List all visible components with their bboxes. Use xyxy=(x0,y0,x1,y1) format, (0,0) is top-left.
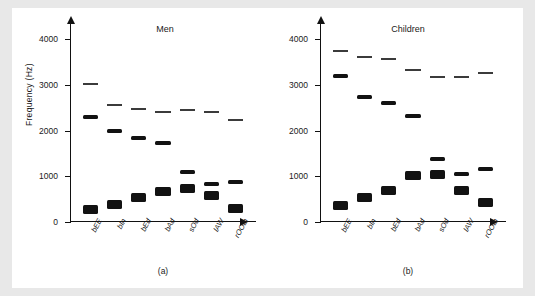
bar-F1-lAW xyxy=(454,186,469,195)
subfigure-caption-a: (a) xyxy=(18,266,268,276)
bar-F1-bEE xyxy=(83,205,98,214)
y-tick-3000: 3000 xyxy=(65,85,71,86)
y-tick-2000: 2000 xyxy=(315,131,321,132)
bar-F1-sOd xyxy=(180,184,195,193)
y-tick-4000: 4000 xyxy=(65,39,71,40)
y-tick-label-2000: 2000 xyxy=(289,126,308,136)
x-label-bIn: bIn xyxy=(116,217,129,230)
bar-F2-sOd xyxy=(180,170,195,174)
bar-F3-rOOth xyxy=(228,119,243,121)
plot-area-children: 01000200030004000 bEEbInbEdbAdsOdlAWrOOt… xyxy=(320,30,490,222)
bar-F3-sOd xyxy=(180,109,195,111)
x-label-sOd: sOd xyxy=(437,217,451,233)
bar-F3-rOOth xyxy=(478,72,493,74)
y-tick-label-1000: 1000 xyxy=(289,171,308,181)
y-tick-0: 0 xyxy=(65,222,71,223)
x-label-lAW: lAW xyxy=(461,217,475,233)
bar-F2-bEd xyxy=(131,136,146,140)
x-label-sOd: sOd xyxy=(187,217,201,233)
bar-F3-lAW xyxy=(204,111,219,113)
bar-F2-bIn xyxy=(107,129,122,133)
bar-F1-rOOth xyxy=(478,198,493,207)
bar-F2-rOOth xyxy=(478,167,493,171)
y-axis-line-b xyxy=(320,22,321,222)
bar-F3-bIn xyxy=(357,56,372,58)
y-axis-arrow-a xyxy=(67,16,75,24)
y-tick-label-4000: 4000 xyxy=(289,34,308,44)
y-tick-2000: 2000 xyxy=(65,131,71,132)
bar-F1-bEE xyxy=(333,201,348,210)
y-tick-label-0: 0 xyxy=(53,217,58,227)
y-tick-3000: 3000 xyxy=(315,85,321,86)
y-tick-1000: 1000 xyxy=(65,176,71,177)
bar-F3-bAd xyxy=(405,69,420,71)
bar-F1-bEd xyxy=(381,186,396,195)
y-axis-arrow-b xyxy=(317,16,325,24)
chart-panel-children: Children 01000200030004000 bEEbInbEdbAds… xyxy=(268,8,518,288)
x-label-bEd: bEd xyxy=(138,217,152,233)
figure-container: Frequency (Hz) Men 01000200030004000 bEE… xyxy=(12,8,523,288)
bar-F2-rOOth xyxy=(228,180,243,184)
bar-F1-sOd xyxy=(430,170,445,179)
bar-F1-rOOth xyxy=(228,204,243,213)
x-label-bAd: bAd xyxy=(413,217,427,233)
bar-F2-bIn xyxy=(357,95,372,99)
y-tick-label-2000: 2000 xyxy=(39,126,58,136)
bar-F3-bEd xyxy=(381,58,396,60)
x-label-bEd: bEd xyxy=(388,217,402,233)
x-label-bEE: bEE xyxy=(89,217,104,234)
y-axis-line-a xyxy=(70,22,71,222)
bar-F3-bIn xyxy=(107,104,122,106)
subfigure-caption-b: (b) xyxy=(268,266,518,276)
bar-F2-lAW xyxy=(454,172,469,176)
bar-F1-bAd xyxy=(155,187,170,196)
plot-area-men: 01000200030004000 bEEbInbEdbAdsOdlAWrOOt… xyxy=(70,30,240,222)
x-label-bAd: bAd xyxy=(163,217,177,233)
y-tick-label-4000: 4000 xyxy=(39,34,58,44)
bar-F2-bEE xyxy=(83,115,98,119)
bar-F2-bAd xyxy=(155,141,170,145)
y-axis-label-a: Frequency (Hz) xyxy=(24,63,34,126)
x-label-bEE: bEE xyxy=(339,217,354,234)
bar-F3-bEE xyxy=(333,50,348,52)
x-label-lAW: lAW xyxy=(211,217,225,233)
bar-F2-bAd xyxy=(405,114,420,118)
y-tick-4000: 4000 xyxy=(315,39,321,40)
bar-F3-sOd xyxy=(430,76,445,78)
bar-F3-bEd xyxy=(131,108,146,110)
y-tick-label-1000: 1000 xyxy=(39,171,58,181)
x-label-bIn: bIn xyxy=(366,217,379,230)
bar-F2-sOd xyxy=(430,157,445,161)
y-tick-label-3000: 3000 xyxy=(39,80,58,90)
y-tick-1000: 1000 xyxy=(315,176,321,177)
bar-F3-lAW xyxy=(454,76,469,78)
bar-F3-bAd xyxy=(155,111,170,113)
y-tick-label-0: 0 xyxy=(303,217,308,227)
bar-F1-lAW xyxy=(204,191,219,200)
bar-F1-bIn xyxy=(107,200,122,209)
bar-F1-bAd xyxy=(405,171,420,180)
bar-F1-bEd xyxy=(131,193,146,202)
bar-F2-lAW xyxy=(204,182,219,186)
y-tick-label-3000: 3000 xyxy=(289,80,308,90)
y-tick-0: 0 xyxy=(315,222,321,223)
bar-F3-bEE xyxy=(83,83,98,85)
bar-F1-bIn xyxy=(357,193,372,202)
bar-F2-bEd xyxy=(381,101,396,105)
bar-F2-bEE xyxy=(333,74,348,78)
chart-panel-men: Frequency (Hz) Men 01000200030004000 bEE… xyxy=(18,8,268,288)
